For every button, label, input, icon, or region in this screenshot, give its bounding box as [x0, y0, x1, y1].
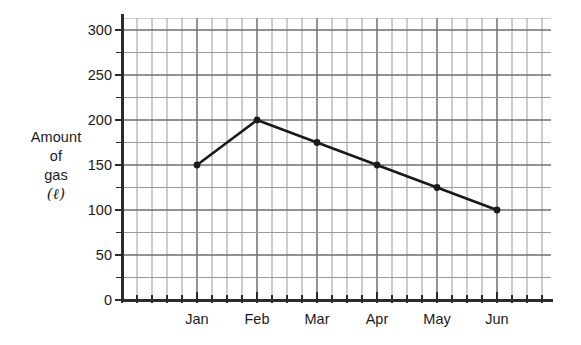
x-axis-label-jan: Jan: [167, 312, 227, 327]
x-axis-label-apr: Apr: [347, 312, 407, 327]
x-tick: [166, 295, 168, 303]
x-tick: [346, 295, 348, 303]
y-axis-line: [121, 14, 124, 302]
y-axis-label-150: 150: [68, 158, 112, 173]
x-tick: [256, 292, 258, 303]
y-tick-200: [115, 119, 123, 121]
y-tick-25: [116, 277, 123, 279]
x-tick: [181, 295, 183, 303]
x-axis-label-jun: Jun: [467, 312, 527, 327]
line-chart: Amount of gas (ℓ) 050100150200250300 Jan…: [0, 0, 581, 345]
y-tick-100: [115, 209, 123, 211]
data-point-mar: [314, 139, 321, 146]
x-tick: [121, 295, 123, 303]
y-tick-175: [116, 142, 123, 144]
x-tick: [211, 295, 213, 303]
x-tick: [226, 295, 228, 303]
x-tick: [331, 295, 333, 303]
x-tick: [301, 295, 303, 303]
y-axis-label-0: 0: [68, 293, 112, 308]
y-tick-125: [116, 187, 123, 189]
x-tick: [541, 295, 543, 303]
y-tick-225: [116, 97, 123, 99]
y-axis-tick-labels: 050100150200250300: [62, 0, 112, 345]
x-tick: [496, 292, 498, 303]
data-point-apr: [374, 162, 381, 169]
data-series: [122, 18, 551, 300]
x-tick: [286, 295, 288, 303]
x-tick: [421, 295, 423, 303]
x-axis-label-mar: Mar: [287, 312, 347, 327]
x-tick: [466, 295, 468, 303]
x-tick: [316, 292, 318, 303]
y-axis-label-200: 200: [68, 113, 112, 128]
plot-area: [122, 18, 551, 300]
y-tick-275: [116, 52, 123, 54]
y-axis-label-250: 250: [68, 68, 112, 83]
x-tick: [406, 295, 408, 303]
x-tick: [391, 295, 393, 303]
data-point-jan: [194, 162, 201, 169]
x-axis-label-may: May: [407, 312, 467, 327]
y-tick-50: [115, 254, 123, 256]
x-tick: [481, 295, 483, 303]
y-tick-150: [115, 164, 123, 166]
y-axis-label-100: 100: [68, 203, 112, 218]
x-tick: [151, 295, 153, 303]
x-tick: [196, 292, 198, 303]
x-axis-label-feb: Feb: [227, 312, 287, 327]
x-tick: [451, 295, 453, 303]
x-tick: [136, 295, 138, 303]
y-tick-75: [116, 232, 123, 234]
y-tick-250: [115, 74, 123, 76]
data-point-feb: [254, 117, 261, 124]
x-tick: [361, 295, 363, 303]
x-tick: [376, 292, 378, 303]
y-tick-300: [115, 29, 123, 31]
x-tick: [271, 295, 273, 303]
x-tick: [511, 295, 513, 303]
y-axis-label-50: 50: [68, 248, 112, 263]
y-axis-label-300: 300: [68, 23, 112, 38]
x-tick: [526, 295, 528, 303]
x-tick: [241, 295, 243, 303]
data-point-jun: [494, 207, 501, 214]
data-point-may: [434, 184, 441, 191]
x-tick: [436, 292, 438, 303]
x-axis-line: [121, 299, 553, 302]
